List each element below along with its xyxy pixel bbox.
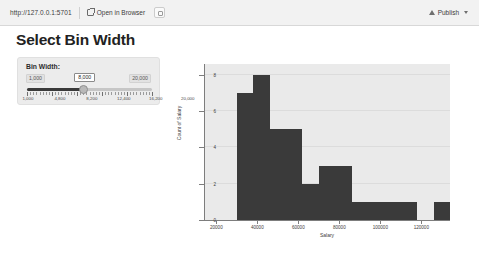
slider-tickmark <box>74 92 75 95</box>
slider-tickmark <box>58 92 59 95</box>
slider-tickmark <box>46 92 47 95</box>
bin-width-slider[interactable] <box>27 87 152 91</box>
bin-width-label: Bin Width: <box>26 63 60 70</box>
slider-tickmark <box>140 92 141 95</box>
slider-tickmark <box>133 92 134 95</box>
slider-tick-label: 12,400 <box>117 96 130 101</box>
histogram-bars <box>204 64 450 220</box>
slider-tickmark <box>130 92 131 95</box>
slider-tickmark <box>93 92 94 95</box>
histogram-bar <box>352 202 418 220</box>
publish-button[interactable]: Publish <box>424 7 473 18</box>
x-axis-title: Salary <box>204 232 450 238</box>
slider-tickmark <box>49 92 50 95</box>
y-axis-tick <box>199 75 204 76</box>
slider-tickmark <box>136 92 137 95</box>
slider-tick-label: 8,200 <box>86 96 97 101</box>
slider-tickmark <box>96 92 97 95</box>
external-link-icon <box>87 9 94 16</box>
slider-tickmark <box>115 92 116 95</box>
histogram-bar <box>434 202 450 220</box>
toolbar-divider <box>79 7 80 19</box>
x-axis-line <box>204 220 450 221</box>
x-axis-tick <box>298 220 299 224</box>
copy-icon[interactable] <box>154 7 165 18</box>
y-axis-tick-label: 2 <box>213 181 216 186</box>
page-title: Select Bin Width <box>16 31 135 49</box>
y-axis-tick <box>199 147 204 148</box>
slider-min-value: 1,000 <box>26 74 45 83</box>
open-in-browser-label: Open in Browser <box>97 9 145 16</box>
publish-label: Publish <box>438 9 459 16</box>
slider-tickmark <box>143 92 144 95</box>
x-axis-tick <box>339 220 340 224</box>
slider-tickmark <box>68 92 69 95</box>
histogram-bar <box>319 166 352 220</box>
x-axis-tick-label: 40000 <box>251 225 264 230</box>
slider-tickmark <box>105 92 106 95</box>
slider-thumb[interactable] <box>79 85 88 94</box>
x-axis-tick-label: 60000 <box>292 225 305 230</box>
histogram-bar <box>270 129 303 220</box>
slider-tickmark <box>121 92 122 95</box>
slider-tickmark <box>65 92 66 95</box>
slider-current-value: 8,000 <box>74 73 95 82</box>
slider-tickmark <box>40 92 41 95</box>
y-axis-tick <box>199 220 204 221</box>
y-axis-tick-label: 8 <box>213 72 216 77</box>
slider-tickmark <box>55 92 56 95</box>
slider-tickmark <box>36 92 37 95</box>
slider-tick-label: 4,800 <box>54 96 65 101</box>
slider-tickmark <box>111 92 112 95</box>
slider-tickmark <box>99 92 100 95</box>
slider-tick-labels: 1,0004,8008,20012,40016,20020,000 <box>24 96 155 104</box>
url-text: http://127.0.0.1:5701 <box>6 9 72 16</box>
slider-tickmark <box>33 92 34 95</box>
slider-tickmark <box>61 92 62 95</box>
slider-tickmark <box>146 92 147 95</box>
slider-track-fill <box>27 88 83 91</box>
y-axis-title: Count of Salary <box>176 78 182 168</box>
slider-tickmark <box>108 92 109 95</box>
x-axis-tick <box>421 220 422 224</box>
open-in-browser-button[interactable]: Open in Browser <box>87 9 145 16</box>
slider-tickmark <box>30 92 31 95</box>
x-axis-tick <box>216 220 217 224</box>
y-axis-line <box>204 64 205 220</box>
y-axis-tick <box>199 111 204 112</box>
slider-tickmark <box>71 92 72 95</box>
slider-max-value: 20,000 <box>129 74 151 83</box>
publish-upload-icon <box>429 10 435 15</box>
plot-area <box>204 64 450 220</box>
histogram-bar <box>237 93 253 220</box>
x-axis-tick <box>380 220 381 224</box>
x-axis-tick <box>257 220 258 224</box>
histogram-bar <box>253 75 269 220</box>
slider-tick-label: 1,000 <box>22 96 33 101</box>
top-toolbar: http://127.0.0.1:5701 Open in Browser Pu… <box>0 0 479 26</box>
x-axis-tick-label: 80000 <box>333 225 346 230</box>
slider-tickmark <box>118 92 119 95</box>
y-axis-tick <box>199 184 204 185</box>
x-axis-tick-label: 120000 <box>414 225 429 230</box>
slider-tick-label: 16,200 <box>149 96 162 101</box>
x-axis-tick-label: 20000 <box>210 225 223 230</box>
slider-tickmark <box>124 92 125 95</box>
bin-width-panel: Bin Width: 1,000 20,000 8,000 1,0004,800… <box>17 57 160 105</box>
slider-tickmark <box>90 92 91 95</box>
x-axis-tick-label: 100000 <box>373 225 388 230</box>
y-axis-tick-label: 4 <box>213 145 216 150</box>
histogram-bar <box>302 184 318 220</box>
slider-tickmark <box>149 92 150 95</box>
y-axis-tick-label: 6 <box>213 109 216 114</box>
salary-histogram: 02468 20000400006000080000100000120000 C… <box>168 58 468 253</box>
slider-tickmark <box>43 92 44 95</box>
chevron-down-icon[interactable] <box>464 11 468 14</box>
